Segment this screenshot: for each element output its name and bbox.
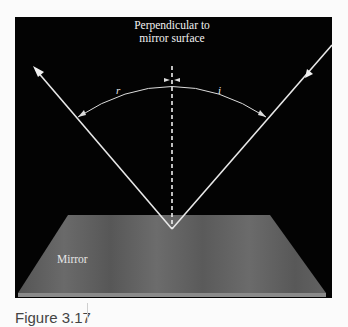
figure-caption: Figure 3.17 (15, 309, 91, 327)
mirror-label: Mirror (57, 253, 88, 265)
mirror-edge (18, 293, 326, 297)
reflected-ray-arrowhead-icon (33, 66, 44, 77)
arc-arrow-right-icon (258, 110, 266, 117)
caption-divider (87, 303, 88, 322)
arc-arrow-left-icon (78, 110, 86, 117)
incident-angle-label: i (218, 84, 221, 96)
perpendicular-label: Perpendicular to mirror surface (110, 19, 234, 45)
reflected-ray (36, 70, 172, 229)
perpendicular-label-line2: mirror surface (110, 32, 234, 45)
perpendicular-label-line1: Perpendicular to (110, 19, 234, 32)
arc-arrow-mid-left-icon (164, 78, 170, 82)
reflected-angle-label: r (116, 84, 120, 96)
arc-arrow-mid-right-icon (174, 78, 180, 82)
